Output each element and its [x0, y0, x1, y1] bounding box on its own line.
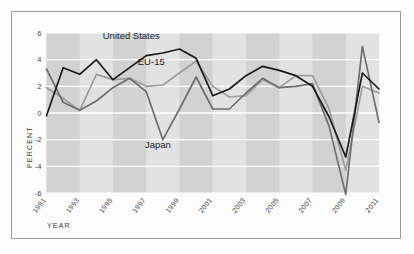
- x-axis-tick-labels: 1991199319951997199920012003200520072009…: [31, 196, 380, 214]
- x-axis-title: YEAR: [47, 222, 71, 229]
- x-tick-label: 1999: [164, 196, 180, 214]
- y-tick-label: -6: [35, 190, 41, 197]
- figure: 6420-2-4-6 19911993199519971999200120032…: [0, 0, 414, 254]
- y-tick-label: 2: [38, 83, 42, 90]
- series-label-japan: Japan: [145, 139, 171, 150]
- x-tick-label: 1997: [131, 196, 147, 214]
- x-tick-label: 1991: [31, 196, 47, 214]
- x-tick-label: 2011: [364, 196, 380, 213]
- y-tick-label: 4: [38, 56, 42, 63]
- x-tick-label: 1993: [64, 196, 80, 214]
- y-tick-label: 0: [38, 110, 42, 117]
- x-tick-label: 1995: [98, 196, 114, 214]
- x-tick-label: 2005: [264, 196, 280, 214]
- x-tick-label: 2001: [197, 196, 213, 214]
- line-chart: 6420-2-4-6 19911993199519971999200120032…: [0, 0, 414, 254]
- y-tick-label: -2: [35, 136, 41, 143]
- x-tick-label: 2009: [330, 196, 346, 214]
- y-axis-title: PERCENT: [26, 126, 33, 168]
- series-label-eu-15: EU-15: [138, 56, 165, 67]
- y-tick-label: 6: [38, 30, 42, 37]
- series-label-united-states: United States: [103, 30, 160, 41]
- x-tick-label: 2007: [297, 196, 313, 214]
- x-tick-label: 2003: [231, 196, 247, 214]
- chart-plot-wrapper: 6420-2-4-6 19911993199519971999200120032…: [0, 0, 414, 254]
- y-axis-tick-labels: 6420-2-4-6: [35, 30, 41, 197]
- y-tick-label: -4: [35, 163, 41, 170]
